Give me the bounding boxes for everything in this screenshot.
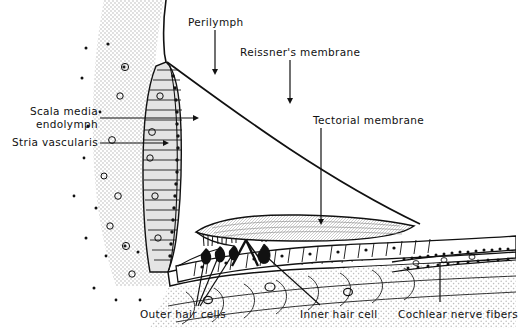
label-inner-hair-cell: Inner hair cell: [300, 308, 378, 321]
label-reissners-membrane: Reissner's membrane: [240, 46, 360, 59]
reissners-membrane-curve: [167, 62, 420, 224]
label-perilymph: Perilymph: [188, 16, 243, 29]
label-tectorial-membrane: Tectorial membrane: [313, 114, 424, 127]
tectorial-membrane-structure: [196, 215, 414, 246]
label-outer-hair-cells: Outer hair cells: [140, 308, 226, 321]
label-scala-media: Scala media: [0, 105, 98, 118]
stria-vascularis-structure: [143, 62, 182, 272]
label-endolymph: endolymph: [0, 118, 98, 131]
label-stria-vascularis: Stria vascularis: [0, 136, 98, 149]
bony-wall-line: [164, 0, 166, 62]
label-cochlear-nerve-fibers: Cochlear nerve fibers: [398, 308, 518, 321]
